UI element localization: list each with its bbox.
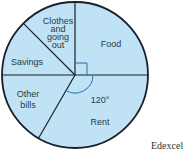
label-savings: Savings [11,57,44,67]
label-food: Food [101,39,122,49]
source-credit: Edexcel [151,140,183,151]
label-angle-rent: 120° [91,95,110,105]
label-other-bills-line1: Other [17,89,40,99]
label-rent: Rent [90,117,110,127]
label-clothes-line4: out [52,40,65,50]
label-other-bills-line2: bills [20,100,36,110]
